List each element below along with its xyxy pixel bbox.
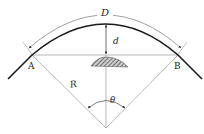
label-A: A [27, 61, 35, 71]
span-dimension-arc [29, 15, 181, 48]
angle-arc [88, 101, 125, 109]
hatched-segment [91, 57, 128, 67]
label-B: B [174, 61, 181, 71]
arch-diagram: D d A B R θ [0, 0, 204, 134]
label-d: d [113, 36, 119, 46]
label-theta: θ [110, 95, 115, 105]
arch-curve [8, 24, 202, 79]
label-D: D [100, 7, 109, 18]
label-R: R [68, 79, 78, 90]
